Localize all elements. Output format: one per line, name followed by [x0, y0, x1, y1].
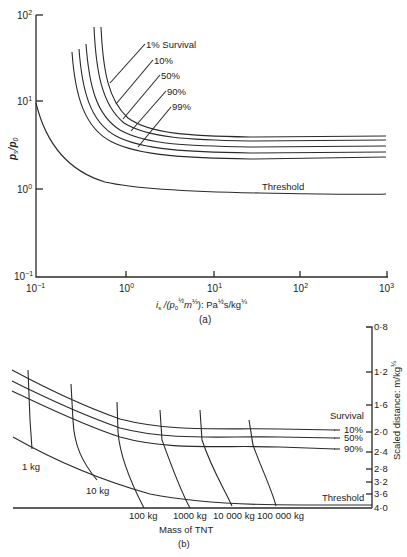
chart-a-xlabel: is /(p0½m⅓): Pa½s/kg⅓: [156, 297, 247, 311]
label-50pct: 50%: [161, 70, 181, 81]
mass-line-1000kg: [160, 410, 190, 508]
curve-1pct-survival: [101, 27, 386, 137]
mass-label-1000kg: 1000 kg: [173, 510, 207, 521]
mass-line-1kg: [28, 370, 32, 449]
y-label-100: 102: [17, 9, 32, 21]
tick-label-1.6: 1·6: [374, 399, 388, 410]
curve-threshold: [36, 103, 386, 194]
chart-b-xlabel: Mass of TNT: [159, 524, 213, 535]
x-label-10: 101: [207, 282, 222, 294]
chart-b: 0·8 1·2 1·6 2·0 2·4 2·8 3·2 3·6 4·0 Scal…: [12, 321, 402, 549]
mass-line-100000kg: [249, 420, 276, 506]
label-threshold-a: Threshold: [262, 181, 304, 192]
label-b-survival: Survival: [330, 410, 364, 421]
leader-50pct: [123, 75, 160, 119]
label-1pct-survival: 1% Survival: [146, 39, 196, 50]
mass-line-100kg: [117, 402, 144, 508]
mass-line-10000kg: [200, 410, 232, 506]
tick-label-4.0: 4·0: [374, 502, 388, 513]
y-label-10: 101: [17, 95, 32, 107]
label-10pct: 10%: [154, 55, 174, 66]
y-label-1: 100: [17, 183, 32, 195]
leader-90pct: [131, 91, 166, 131]
tick-label-3.2: 3·2: [374, 476, 388, 487]
x-label-100: 102: [293, 282, 308, 294]
chart-a-caption: (a): [199, 314, 211, 325]
leader-10pct: [116, 60, 153, 104]
tick-label-3.6: 3·6: [374, 488, 388, 499]
x-label-1000: 103: [379, 282, 394, 294]
label-b-90pct: 90%: [344, 443, 364, 454]
curve-b-90pct: [12, 391, 335, 449]
label-b-threshold: Threshold: [322, 492, 364, 503]
mass-label-10000kg: 10 000 kg: [213, 510, 255, 521]
x-label-1: 100: [119, 282, 134, 294]
leader-1pct: [110, 44, 145, 83]
x-label-0.1: 10−1: [26, 282, 45, 294]
curve-90pct-survival: [79, 49, 386, 153]
y-label-0.1: 10−1: [14, 270, 33, 282]
chart-b-caption: (b): [178, 538, 190, 549]
curve-99pct-survival: [72, 52, 386, 159]
chart-b-axis: [366, 327, 372, 508]
tick-label-2.8: 2·8: [374, 463, 388, 474]
mass-label-1kg: 1 kg: [22, 461, 40, 472]
tick-label-1.2: 1·2: [374, 366, 388, 377]
mass-label-100kg: 100 kg: [129, 510, 158, 521]
tick-label-2.0: 2·0: [374, 426, 388, 437]
chart-a-ylabel: ps/p0: [7, 138, 19, 162]
mass-label-100000kg: 100 000 kg: [257, 510, 304, 521]
mass-line-10kg: [71, 384, 97, 480]
tick-label-0.8: 0·8: [374, 321, 388, 332]
tick-label-2.4: 2·4: [374, 446, 388, 457]
chart-b-ylabel: Scaled distance: m/kg⅓: [390, 361, 402, 460]
label-b-50pct: 50%: [344, 432, 364, 443]
chart-a: 102 101 100 10−1 10−1 100 101 102 103 ps…: [7, 9, 394, 325]
label-99pct: 99%: [172, 101, 192, 112]
figure-canvas: 102 101 100 10−1 10−1 100 101 102 103 ps…: [0, 0, 407, 557]
curve-b-threshold: [13, 437, 372, 505]
label-90pct: 90%: [167, 86, 187, 97]
curve-b-10pct: [12, 370, 335, 430]
mass-label-10kg: 10 kg: [86, 485, 109, 496]
